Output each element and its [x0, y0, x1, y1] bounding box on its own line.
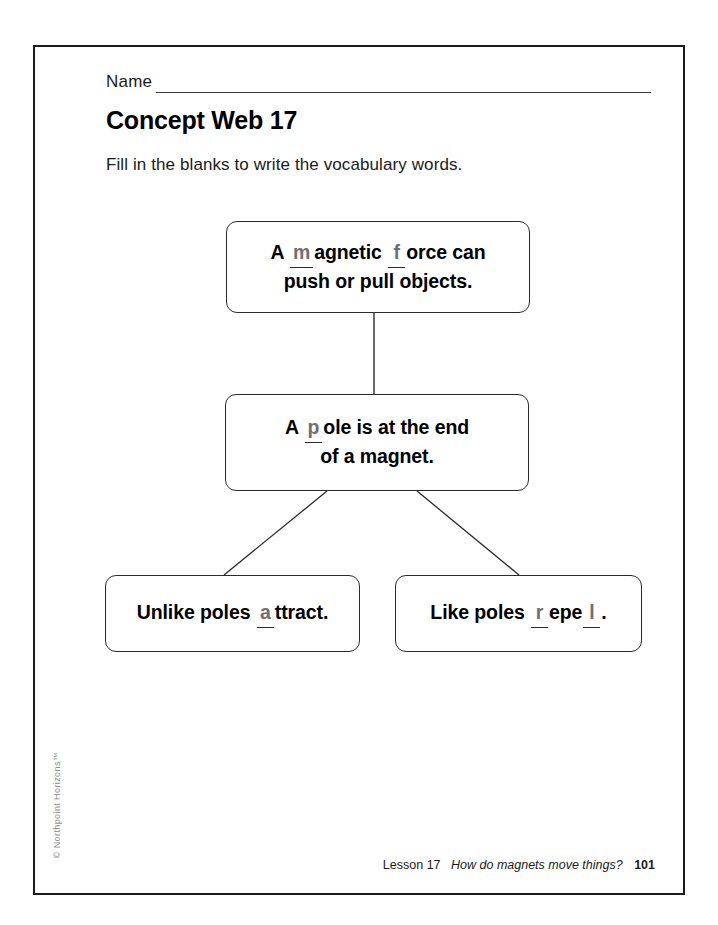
static-text-mid2: .: [601, 601, 606, 623]
static-text-mid1: agnetic: [314, 241, 382, 263]
static-text-pre: A: [285, 416, 298, 438]
copyright-notice: © Northpoint Horizons™: [52, 745, 62, 865]
static-text-pre: Unlike poles: [137, 601, 251, 623]
answer-blank-r[interactable]: r: [531, 599, 548, 628]
concept-web-diagram: A magnetic force can push or pull object…: [35, 47, 687, 897]
page-footer: Lesson 17 How do magnets move things? 10…: [365, 858, 655, 872]
footer-lesson-question: How do magnets move things?: [451, 858, 623, 872]
footer-lesson-label: Lesson 17: [383, 858, 441, 872]
answer-blank-p[interactable]: p: [305, 414, 323, 443]
footer-page-number: 101: [634, 858, 655, 872]
static-text-mid1: ole is at the end: [323, 416, 469, 438]
static-text-mid1: ttract.: [275, 601, 328, 623]
concept-box-text: Unlike poles attract.: [137, 599, 328, 628]
concept-box-magnetic-force: A magnetic force can push or pull object…: [226, 221, 530, 313]
worksheet-page: Name Concept Web 17 Fill in the blanks t…: [33, 45, 685, 895]
static-text-line2: push or pull objects.: [284, 270, 473, 292]
concept-box-unlike-poles: Unlike poles attract.: [105, 575, 360, 652]
concept-box-like-poles: Like poles repel.: [395, 575, 642, 652]
concept-box-text: A pole is at the end of a magnet.: [285, 414, 469, 470]
connector-box2-to-left: [224, 491, 327, 575]
answer-blank-a[interactable]: a: [257, 599, 274, 628]
static-text-line2: of a magnet.: [320, 445, 434, 467]
concept-box-text: A magnetic force can push or pull object…: [270, 239, 485, 295]
static-text-pre: Like poles: [430, 601, 524, 623]
static-text-mid1: epe: [549, 601, 582, 623]
answer-blank-m[interactable]: m: [290, 239, 313, 268]
concept-box-pole: A pole is at the end of a magnet.: [225, 394, 529, 491]
static-text-pre: A: [270, 241, 283, 263]
answer-blank-f[interactable]: f: [388, 239, 405, 268]
static-text-mid2: orce can: [406, 241, 485, 263]
concept-box-text: Like poles repel.: [430, 599, 606, 628]
answer-blank-l[interactable]: l: [583, 599, 600, 628]
connector-box2-to-right: [417, 491, 519, 575]
